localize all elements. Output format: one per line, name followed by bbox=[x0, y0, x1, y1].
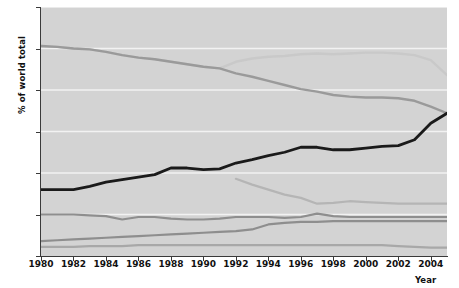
x-tick-mark bbox=[431, 257, 432, 261]
x-tick-mark bbox=[398, 257, 399, 261]
x-tick-mark bbox=[41, 257, 42, 261]
series-line-series-lowest-flat bbox=[41, 245, 447, 247]
series-layer bbox=[41, 7, 447, 256]
x-tick-mark bbox=[106, 257, 107, 261]
y-axis-title: % of world total bbox=[17, 5, 27, 145]
series-line-series-rising-low bbox=[41, 221, 447, 241]
x-tick-mark bbox=[171, 257, 172, 261]
x-tick-mark bbox=[73, 257, 74, 261]
plot-area bbox=[41, 7, 447, 256]
x-tick-mark bbox=[268, 257, 269, 261]
x-tick-mark bbox=[236, 257, 237, 261]
x-axis-line bbox=[40, 256, 448, 257]
series-line-series-light-1992-start bbox=[236, 179, 447, 204]
x-axis-title: Year bbox=[415, 275, 436, 285]
x-tick-mark bbox=[138, 257, 139, 261]
x-tick-mark bbox=[301, 257, 302, 261]
line-chart: % of world total Year 051015202530 19801… bbox=[0, 0, 459, 288]
x-tick-mark bbox=[366, 257, 367, 261]
series-line-series-black-rising bbox=[41, 113, 447, 189]
series-line-series-gray-declining bbox=[41, 46, 447, 113]
x-tick-mark bbox=[203, 257, 204, 261]
x-tick-mark bbox=[333, 257, 334, 261]
